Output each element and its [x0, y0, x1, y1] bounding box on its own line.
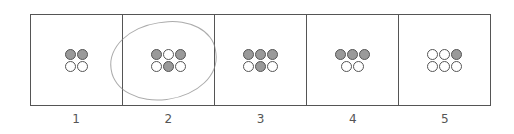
dot-pattern — [335, 49, 370, 72]
dot-pattern — [65, 49, 88, 72]
dot-pattern — [427, 49, 462, 72]
empty-circle-icon — [77, 61, 88, 72]
option-cell-5[interactable] — [399, 15, 490, 105]
empty-circle-icon — [353, 61, 364, 72]
empty-circle-icon — [341, 61, 352, 72]
dot-pattern — [243, 49, 278, 72]
dot-row — [335, 49, 370, 60]
filled-circle-icon — [77, 49, 88, 60]
empty-circle-icon — [267, 61, 278, 72]
dot-row — [427, 61, 462, 72]
empty-circle-icon — [451, 61, 462, 72]
empty-circle-icon — [65, 61, 76, 72]
option-cell-3[interactable] — [215, 15, 307, 105]
filled-circle-icon — [451, 49, 462, 60]
dot-row — [151, 61, 186, 72]
option-cell-2[interactable] — [123, 15, 215, 105]
option-label: 2 — [122, 112, 214, 126]
answer-strip — [30, 14, 491, 106]
dot-row — [427, 49, 462, 60]
filled-circle-icon — [347, 49, 358, 60]
dot-row — [341, 61, 364, 72]
empty-circle-icon — [427, 61, 438, 72]
empty-circle-icon — [439, 61, 450, 72]
filled-circle-icon — [255, 49, 266, 60]
filled-circle-icon — [359, 49, 370, 60]
dot-row — [243, 61, 278, 72]
dot-row — [65, 61, 88, 72]
filled-circle-icon — [175, 49, 186, 60]
filled-circle-icon — [255, 61, 266, 72]
dot-row — [243, 49, 278, 60]
filled-circle-icon — [163, 61, 174, 72]
filled-circle-icon — [151, 49, 162, 60]
option-label: 4 — [307, 112, 399, 126]
empty-circle-icon — [243, 61, 254, 72]
empty-circle-icon — [427, 49, 438, 60]
option-label: 1 — [30, 112, 122, 126]
empty-circle-icon — [151, 61, 162, 72]
option-cell-1[interactable] — [31, 15, 123, 105]
option-label: 5 — [399, 112, 491, 126]
empty-circle-icon — [439, 49, 450, 60]
filled-circle-icon — [243, 49, 254, 60]
empty-circle-icon — [175, 61, 186, 72]
option-cell-4[interactable] — [307, 15, 399, 105]
option-labels: 12345 — [30, 112, 491, 126]
filled-circle-icon — [267, 49, 278, 60]
filled-circle-icon — [335, 49, 346, 60]
dot-pattern — [151, 49, 186, 72]
dot-row — [151, 49, 186, 60]
empty-circle-icon — [163, 49, 174, 60]
filled-circle-icon — [65, 49, 76, 60]
option-label: 3 — [214, 112, 306, 126]
dot-row — [65, 49, 88, 60]
